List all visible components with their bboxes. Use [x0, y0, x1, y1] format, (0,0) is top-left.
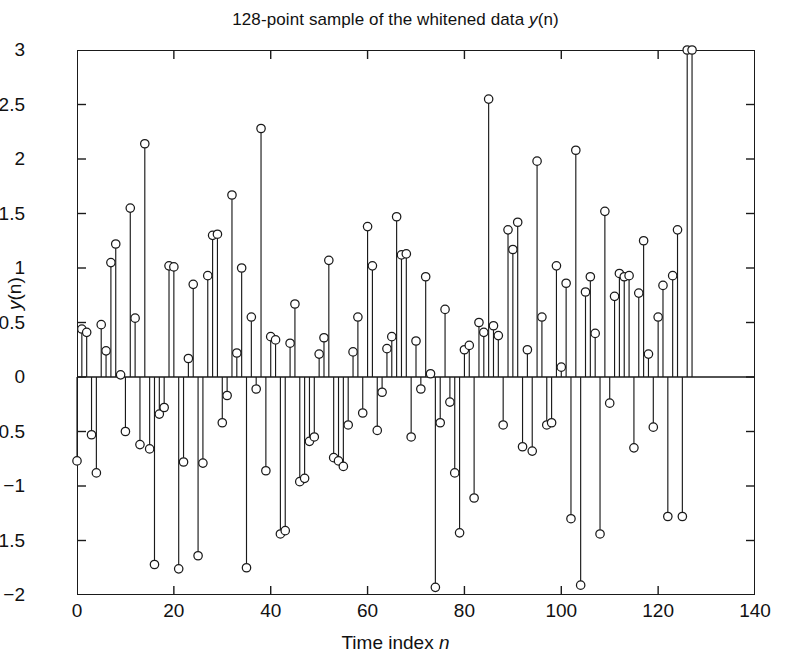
y-tick-label: −1 [3, 475, 25, 497]
stem-marker [126, 204, 134, 212]
x-axis-label-text: Time index [341, 632, 439, 653]
stem-marker [170, 263, 178, 271]
stem-marker [189, 280, 197, 288]
x-tick-label: 140 [739, 600, 771, 622]
stem-marker [562, 279, 570, 287]
stem-marker [451, 469, 459, 477]
stem-marker [107, 258, 115, 266]
stem-marker [494, 331, 502, 339]
stem-marker [300, 474, 308, 482]
stem-marker [606, 399, 614, 407]
y-tick-label: −0.5 [0, 421, 25, 443]
stem-marker [325, 256, 333, 264]
stem-marker [649, 423, 657, 431]
stem-marker [102, 347, 110, 355]
stem-marker [581, 288, 589, 296]
stem-marker [121, 427, 129, 435]
stem-marker [644, 350, 652, 358]
stem-marker [470, 494, 478, 502]
stem-marker [228, 191, 236, 199]
stem-marker [179, 458, 187, 466]
stem-marker [475, 318, 483, 326]
stem-marker [465, 341, 473, 349]
stem-marker [310, 433, 318, 441]
stem-marker [402, 250, 410, 258]
y-tick-label: −1.5 [0, 530, 25, 552]
stem-marker [291, 300, 299, 308]
stem-marker [528, 447, 536, 455]
stem-marker [601, 207, 609, 215]
stem-marker [412, 337, 420, 345]
stem-marker [567, 515, 575, 523]
stem-marker [368, 262, 376, 270]
stem-marker [664, 512, 672, 520]
stem-marker [136, 440, 144, 448]
stem-marker [97, 320, 105, 328]
x-tick-label: 40 [260, 600, 281, 622]
stem-marker [639, 237, 647, 245]
stem-marker [446, 398, 454, 406]
stem-marker [131, 314, 139, 322]
stem-marker [392, 213, 400, 221]
stem-marker [194, 552, 202, 560]
y-tick-label: 2.5 [0, 94, 25, 116]
stem-marker [383, 344, 391, 352]
stem-marker [431, 583, 439, 591]
stem-marker [518, 443, 526, 451]
plot-area [77, 50, 755, 595]
stem-marker [223, 391, 231, 399]
stem-marker [480, 328, 488, 336]
figure-canvas: 128-point sample of the whitened data y(… [0, 0, 791, 669]
x-tick-label: 20 [163, 600, 184, 622]
stem-marker [145, 445, 153, 453]
stem-marker [184, 354, 192, 362]
stem-marker [262, 467, 270, 475]
stem-marker [373, 426, 381, 434]
stem-marker [596, 530, 604, 538]
x-axis-label-variable: n [439, 632, 450, 653]
y-tick-label: 1 [14, 257, 25, 279]
stem-marker [82, 328, 90, 336]
stem-marker [668, 271, 676, 279]
y-tick-label: 0 [14, 366, 25, 388]
stem-marker [455, 529, 463, 537]
y-tick-label: 3 [14, 39, 25, 61]
y-axis-label-suffix: (n) [4, 277, 25, 300]
stem-marker [484, 95, 492, 103]
stem-marker [659, 281, 667, 289]
stem-marker [213, 230, 221, 238]
stem-marker [73, 457, 81, 465]
page-title: 128-point sample of the whitened data y(… [0, 10, 791, 30]
stem-marker [436, 419, 444, 427]
stem-marker [257, 124, 265, 132]
y-tick-label: 1.5 [0, 203, 25, 225]
stem-marker [339, 462, 347, 470]
stem-marker [388, 332, 396, 340]
stem-marker [204, 271, 212, 279]
stem-marker [237, 264, 245, 272]
stem-marker [673, 226, 681, 234]
stem-marker [87, 431, 95, 439]
stem-marker [591, 329, 599, 337]
stem-marker [678, 512, 686, 520]
stem-marker [359, 409, 367, 417]
y-tick-label: −2 [3, 584, 25, 606]
x-axis-label: Time index n [0, 632, 791, 654]
stem-marker [509, 245, 517, 253]
x-tick-label: 80 [454, 600, 475, 622]
stem-marker [504, 226, 512, 234]
stem-marker [630, 444, 638, 452]
stem-marker [576, 581, 584, 589]
stem-marker [523, 346, 531, 354]
stem-marker [533, 157, 541, 165]
title-variable: y [529, 10, 538, 29]
stem-marker [242, 564, 250, 572]
stem-marker [199, 459, 207, 467]
stem-marker [92, 469, 100, 477]
stem-marker [175, 565, 183, 573]
stem-marker [586, 273, 594, 281]
stem-marker [354, 313, 362, 321]
stem-marker [233, 349, 241, 357]
stem-marker [426, 370, 434, 378]
stem-marker [572, 146, 580, 154]
